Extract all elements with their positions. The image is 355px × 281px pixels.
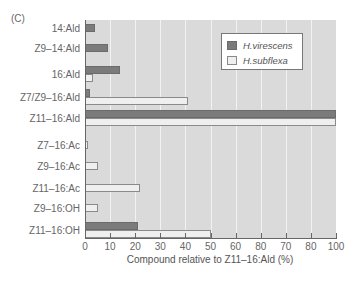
x-tick-label: 80 (305, 241, 316, 252)
gridline (135, 20, 136, 238)
bar-virescens (85, 24, 95, 32)
category-label: Z7/Z9–16:Ald (20, 92, 80, 103)
category-label: Z9–14:Ald (34, 43, 80, 54)
x-tick-label: 80 (255, 241, 266, 252)
x-tick (311, 233, 312, 238)
category-label: Z11–16:OH (29, 225, 80, 236)
gridline (160, 20, 161, 238)
x-tick (160, 233, 161, 238)
x-tick (110, 233, 111, 238)
gridline (311, 20, 312, 238)
bar-subflexa (85, 97, 188, 105)
x-tick-label: 40 (180, 241, 191, 252)
legend-item-virescens: H.virescens (227, 39, 293, 51)
legend-swatch-light (227, 56, 237, 65)
legend-swatch-dark (227, 41, 237, 50)
x-tick-label: 50 (205, 241, 216, 252)
bar-subflexa (85, 184, 140, 192)
x-tick-label: 20 (130, 241, 141, 252)
gridline (185, 20, 186, 238)
panel-label: (C) (11, 13, 25, 24)
legend-item-subflexa: H.subflexa (227, 54, 288, 66)
x-tick (135, 233, 136, 238)
y-axis (85, 20, 86, 239)
x-tick (236, 233, 237, 238)
x-tick-label: 30 (155, 241, 166, 252)
x-axis-label: Compound relative to Z11–16:Ald (%) (127, 254, 294, 265)
bar-subflexa (85, 118, 336, 126)
bar-subflexa (85, 162, 98, 170)
x-tick-label: 70 (280, 241, 291, 252)
legend-label: H.virescens (243, 40, 293, 51)
x-tick (286, 233, 287, 238)
x-tick-label: 0 (82, 241, 88, 252)
gridline (211, 20, 212, 238)
x-tick-label: 60 (230, 241, 241, 252)
x-tick (261, 233, 262, 238)
x-tick-label: 10 (105, 241, 116, 252)
x-tick (336, 233, 337, 238)
category-label: Z11–16:Ac (32, 183, 80, 194)
bar-subflexa (85, 230, 211, 238)
category-label: 14:Ald (52, 23, 80, 34)
gridline (110, 20, 111, 238)
bar-virescens (85, 66, 120, 74)
legend: H.virescens H.subflexa (221, 33, 303, 70)
x-axis (85, 238, 337, 239)
category-label: Z9–16:Ac (37, 161, 80, 172)
legend-label: H.subflexa (243, 55, 288, 66)
category-label: Z11–16:Ald (30, 113, 80, 124)
bar-virescens (85, 44, 108, 52)
category-label: Z9–16:OH (34, 203, 80, 214)
bar-virescens (85, 222, 138, 230)
x-tick (211, 233, 212, 238)
bar-virescens (85, 110, 336, 118)
x-tick (185, 233, 186, 238)
x-tick-label: 100 (328, 241, 345, 252)
category-label: Z7–16:Ac (37, 140, 80, 151)
bar-subflexa (85, 204, 98, 212)
bar-subflexa (85, 74, 93, 82)
category-label: 16:Ald (52, 69, 80, 80)
